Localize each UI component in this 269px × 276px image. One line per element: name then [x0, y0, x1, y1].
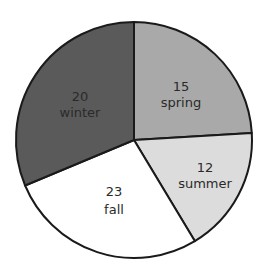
winter-value: 20 [72, 89, 89, 104]
pie-chart: 20 winter 15 spring 12 summer 23 fall [0, 0, 269, 276]
summer-value: 12 [197, 160, 214, 175]
summer-label: summer [178, 176, 232, 191]
slice-spring [134, 22, 252, 140]
spring-label: spring [161, 95, 201, 110]
spring-value: 15 [173, 79, 190, 94]
winter-label: winter [60, 105, 102, 120]
fall-value: 23 [106, 184, 123, 199]
fall-label: fall [104, 202, 124, 217]
pie-slices [16, 22, 252, 258]
